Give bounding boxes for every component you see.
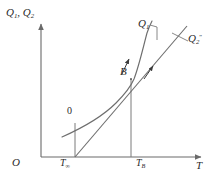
- leader-line-group: [150, 25, 188, 41]
- point-b-marker: [130, 78, 132, 80]
- x-axis-label: T: [196, 160, 202, 171]
- curve-label-q1: Q1: [138, 18, 149, 31]
- point-b-label: B: [120, 66, 127, 77]
- guide-group: [75, 79, 131, 157]
- point-zero-label: 0: [67, 106, 72, 116]
- direction-arrow-on-q2-icon: [144, 66, 153, 79]
- leader-line-q1: [150, 25, 157, 40]
- origin-label: O: [12, 157, 20, 168]
- plot-canvas: [0, 0, 214, 182]
- x-tick-label-t-infinity: T∞: [60, 158, 70, 169]
- curve-label-q2: Q2″: [188, 33, 202, 46]
- axis-group: [41, 24, 201, 157]
- semenov-diagram-figure: Q1, Q2 T O T∞ TB Q1 Q2″ B 0: [0, 0, 214, 182]
- x-tick-label-t-b: TB: [136, 158, 145, 169]
- y-axis-label: Q1, Q2: [6, 7, 34, 20]
